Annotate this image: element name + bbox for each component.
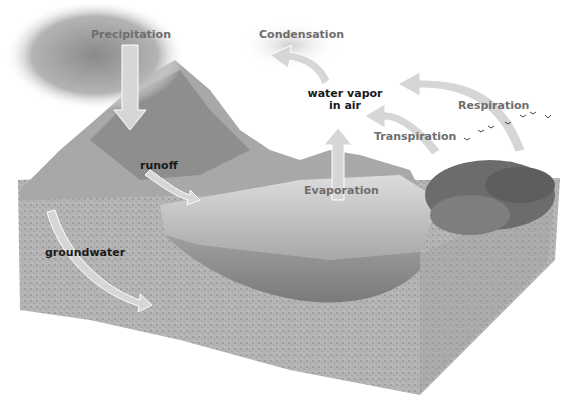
groundwater-label: groundwater [45, 247, 125, 259]
respiration-label: Respiration [458, 100, 529, 112]
evaporation-label: Evaporation [304, 185, 379, 197]
illustration [0, 0, 572, 408]
water-vapor-line2: in air [305, 100, 385, 112]
rain-cloud [5, 0, 185, 110]
runoff-label: runoff [140, 160, 178, 172]
precipitation-label: Precipitation [91, 29, 171, 41]
water-vapor-label: water vapor in air [305, 88, 385, 112]
transpiration-label: Transpiration [374, 131, 456, 143]
water-cycle-diagram: Precipitation Condensation water vapor i… [0, 0, 572, 408]
condensation-label: Condensation [259, 29, 344, 41]
